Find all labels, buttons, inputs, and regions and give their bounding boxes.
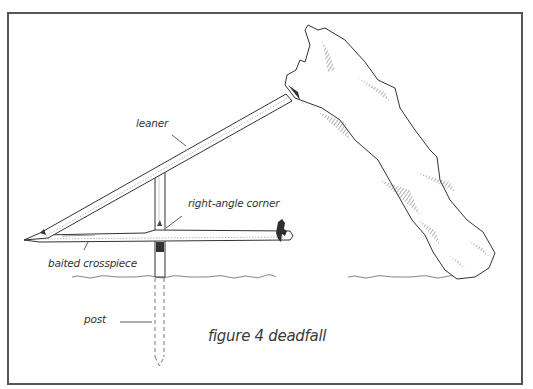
label-baited-crosspiece: baited crosspiece [48,257,137,269]
corner-leader [166,216,182,228]
figure-caption: figure 4 deadfall [208,327,326,345]
post [155,165,165,277]
crosspiece-leader [84,242,88,250]
ground-line [72,275,456,278]
label-leaner: leaner [136,117,168,129]
label-post: post [84,313,106,325]
leaner-leader [172,135,186,146]
post-buried [155,278,164,366]
log [285,25,495,279]
label-right-angle-corner: right-angle corner [188,197,279,209]
